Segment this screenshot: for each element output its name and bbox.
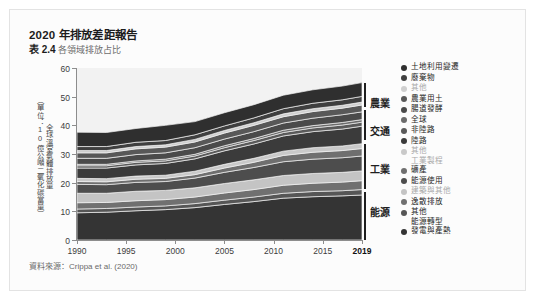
sector-label: 能源 [370,204,390,219]
y-axis-line [76,68,77,240]
legend-item[interactable]: 其他 工業製程 [401,146,519,165]
legend-item[interactable]: 建築與其他 [401,186,519,197]
x-tick-label: 1995 [117,246,136,256]
legend-swatch-icon [401,178,407,184]
legend-label: 農業用土 [411,94,443,105]
x-axis-line [76,240,363,241]
x-tick-label: 2019 [353,246,372,256]
y-tick-label: 30 [30,150,70,160]
x-tick-label: 2010 [264,246,283,256]
y-tick [72,68,76,69]
sector-bracket [364,110,366,140]
y-tick-label: 40 [30,121,70,131]
legend-label: 土地利用變遷 [411,62,460,73]
y-tick-label: 0 [30,236,70,246]
legend-label: 其他 能源轉型 [411,207,443,226]
legend-item[interactable]: 能源使用 [401,176,519,187]
sector-label: 農業 [370,95,390,110]
plot-area [77,68,362,240]
source-note: 資料來源：Crippa et al. (2020) [29,260,137,271]
legend-label: 腸道發酵 [411,104,443,115]
legend-swatch-icon [401,75,407,81]
x-tick [323,240,324,244]
legend-item[interactable]: 農業用土 [401,94,519,105]
legend-swatch-icon [401,96,407,102]
y-tick [72,125,76,126]
y-tick-label: 60 [30,64,70,74]
x-tick [274,240,275,244]
y-tick [72,211,76,212]
legend-swatch-icon [401,65,407,71]
legend-swatch-icon [401,138,407,144]
legend-swatch-icon [401,107,407,113]
legend-label: 發電與產熱 [411,226,452,237]
chart-legend: 土地利用變遷廢棄物其他農業用土腸道發酵全球非陸路陸路其他 工業製程礦產能源使用建… [401,62,519,237]
legend-label: 其他 [411,83,427,94]
y-tick [72,183,76,184]
legend-label: 逸散排放 [411,197,443,208]
legend-item[interactable]: 其他 能源轉型 [401,207,519,226]
legend-item[interactable]: 腸道發酵 [401,104,519,115]
sector-bracket [364,192,366,240]
legend-swatch-icon [401,189,407,195]
sector-label: 交通 [370,123,390,138]
legend-swatch-icon [401,149,407,155]
y-tick [72,240,76,241]
legend-swatch-icon [401,117,407,123]
stacked-area-series [77,68,362,240]
legend-swatch-icon [401,199,407,205]
x-tick [77,240,78,244]
legend-swatch-icon [401,229,407,235]
sector-bracket [364,144,366,189]
legend-item[interactable]: 非陸路 [401,125,519,136]
x-tick-label: 2005 [215,246,234,256]
table-subtitle: 各領域排放占比 [58,45,121,55]
y-tick-label: 10 [30,207,70,217]
legend-item[interactable]: 礦產 [401,165,519,176]
legend-label: 建築與其他 [411,186,452,197]
y-tick-label: 50 [30,93,70,103]
legend-item[interactable]: 發電與產熱 [401,226,519,237]
page-title: 2020 年排放差距報告 [29,26,137,42]
x-tick-label: 2015 [313,246,332,256]
y-tick-label: 20 [30,179,70,189]
legend-item[interactable]: 全球 [401,115,519,126]
legend-item[interactable]: 逸散排放 [401,197,519,208]
legend-label: 其他 工業製程 [411,146,443,165]
figure-container: 2020 年排放差距報告 表 2.4 各領域排放占比 （單位：10億公噸二氧化碳… [0,0,535,300]
table-number: 表 2.4 [29,44,56,55]
legend-label: 廢棄物 [411,73,435,84]
sector-label: 工業 [370,161,390,176]
legend-swatch-icon [401,86,407,92]
legend-label: 全球 [411,115,427,126]
x-tick [126,240,127,244]
x-tick-label: 2000 [166,246,185,256]
legend-swatch-icon [401,210,407,216]
y-tick [72,97,76,98]
x-tick [175,240,176,244]
legend-item[interactable]: 廢棄物 [401,73,519,84]
legend-label: 礦產 [411,165,427,176]
legend-swatch-icon [401,168,407,174]
legend-label: 能源使用 [411,176,443,187]
legend-item[interactable]: 土地利用變遷 [401,62,519,73]
y-tick [72,154,76,155]
legend-item[interactable]: 陸路 [401,136,519,147]
x-tick [224,240,225,244]
table-caption: 表 2.4 各領域排放占比 [29,41,121,56]
x-tick-label: 1990 [68,246,87,256]
x-tick [362,240,363,244]
sector-bracket [364,83,366,107]
legend-label: 非陸路 [411,125,435,136]
legend-swatch-icon [401,128,407,134]
legend-item[interactable]: 其他 [401,83,519,94]
legend-label: 陸路 [411,136,427,147]
